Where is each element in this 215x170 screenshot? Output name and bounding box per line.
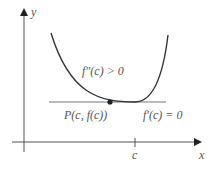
tick-c-label: c [132,148,138,162]
second-derivative-diagram: y x c f″(c) > 0 P(c, f(c)) f′(c) = 0 [0,0,215,170]
concavity-condition-label: f″(c) > 0 [82,64,124,78]
point-label: P(c, f(c)) [63,108,107,122]
minimum-point [107,99,112,104]
y-axis-label: y [30,5,37,19]
derivative-condition-label: f′(c) = 0 [143,108,182,122]
x-axis-label: x [198,148,205,162]
